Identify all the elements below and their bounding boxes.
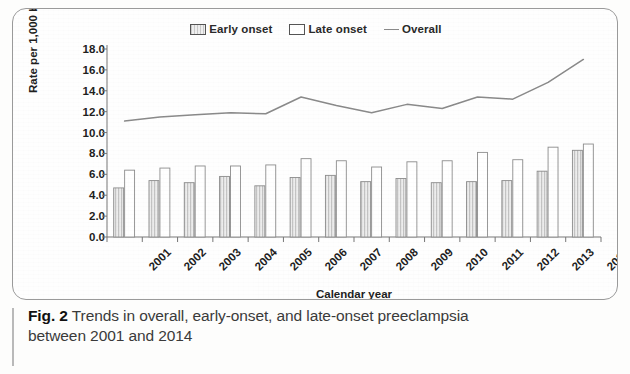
x-axis-title: Calendar year <box>109 288 599 300</box>
x-tick-label: 2008 <box>393 246 420 273</box>
chart-plot-area: Rate per 1,000 births 0.02.04.06.08.010.… <box>13 9 618 300</box>
x-tick-label: 2006 <box>323 246 350 273</box>
caption-text: Fig. 2 Trends in overall, early-onset, a… <box>28 306 618 346</box>
caption-figure-number: Fig. 2 <box>28 307 68 324</box>
caption-line-1: Trends in overall, early-onset, and late… <box>72 307 469 324</box>
x-tick-label: 2003 <box>217 246 244 273</box>
x-tick-label: 2013 <box>570 246 597 273</box>
x-tick-label: 2002 <box>181 246 208 273</box>
x-tick-label: 2005 <box>287 246 314 273</box>
figure-screenshot: Early onset Late onset Overall Rate per … <box>0 0 630 374</box>
x-tick-label: 2014 <box>605 246 618 273</box>
figure-image-frame: Early onset Late onset Overall Rate per … <box>12 8 618 300</box>
x-tick-label: 2004 <box>252 246 279 273</box>
caption-rule-divider <box>12 308 14 366</box>
x-tick-label: 2009 <box>428 246 455 273</box>
x-axis-tick-labels: 2001200220032004200520062007200820092010… <box>13 9 618 300</box>
figure-caption: Fig. 2 Trends in overall, early-onset, a… <box>12 306 618 368</box>
x-tick-label: 2007 <box>358 246 385 273</box>
x-tick-label: 2001 <box>146 246 173 273</box>
x-tick-label: 2011 <box>499 246 525 272</box>
x-tick-label: 2010 <box>464 246 491 273</box>
x-tick-label: 2012 <box>534 246 561 273</box>
caption-line-2: between 2001 and 2014 <box>28 326 618 346</box>
